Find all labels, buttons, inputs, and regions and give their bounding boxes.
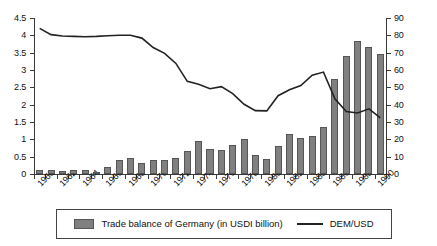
x-tick bbox=[79, 175, 80, 179]
x-tick bbox=[375, 175, 376, 179]
x-tick bbox=[57, 175, 58, 179]
y-tick-label-left: 4.5 bbox=[0, 14, 26, 23]
x-tick bbox=[170, 175, 171, 179]
y-tick-label-left: 1 bbox=[0, 135, 26, 144]
x-tick bbox=[352, 175, 353, 179]
legend-item-dem-usd: DEM/USD bbox=[297, 219, 374, 229]
x-tick bbox=[148, 175, 149, 179]
y-tick-right bbox=[387, 87, 391, 88]
x-tick bbox=[329, 175, 330, 179]
legend-item-trade-balance: Trade balance of Germany (in USDI billio… bbox=[74, 219, 282, 229]
y-tick-right bbox=[387, 53, 391, 54]
y-tick-right bbox=[387, 122, 391, 123]
x-tick bbox=[216, 175, 217, 179]
y-tick-right bbox=[387, 70, 391, 71]
x-tick bbox=[284, 175, 285, 179]
chart-legend: Trade balance of Germany (in USDI billio… bbox=[56, 209, 392, 239]
dem-usd-polyline bbox=[34, 18, 386, 174]
y-tick-label-left: 2.5 bbox=[0, 83, 26, 92]
y-tick-label-right: 50 bbox=[394, 83, 420, 92]
y-tick-label-right: 70 bbox=[394, 49, 420, 58]
legend-label-trade-balance: Trade balance of Germany (in USDI billio… bbox=[101, 219, 282, 229]
line-series-dem-usd bbox=[34, 18, 386, 174]
y-tick-label-left: 0.5 bbox=[0, 153, 26, 162]
x-tick bbox=[102, 175, 103, 179]
y-tick-label-right: 10 bbox=[394, 153, 420, 162]
y-tick-right bbox=[387, 105, 391, 106]
y-tick-label-right: 40 bbox=[394, 101, 420, 110]
y-tick-right bbox=[387, 157, 391, 158]
x-tick bbox=[261, 175, 262, 179]
legend-line-icon bbox=[297, 223, 323, 225]
y-tick-label-right: 60 bbox=[394, 66, 420, 75]
y-tick-label-left: 3 bbox=[0, 66, 26, 75]
y-tick-label-right: 80 bbox=[394, 31, 420, 40]
legend-swatch-icon bbox=[74, 219, 94, 229]
x-tick bbox=[307, 175, 308, 179]
y-axis-right bbox=[386, 18, 387, 175]
y-tick-label-right: 0 bbox=[394, 170, 420, 179]
y-tick-label-right: 20 bbox=[394, 135, 420, 144]
x-tick bbox=[238, 175, 239, 179]
y-tick-label-left: 3.5 bbox=[0, 49, 26, 58]
y-tick-right bbox=[387, 35, 391, 36]
y-tick-label-left: 0 bbox=[0, 170, 26, 179]
y-tick-label-left: 2 bbox=[0, 101, 26, 110]
legend-label-dem-usd: DEM/USD bbox=[330, 219, 374, 229]
y-tick-right bbox=[387, 139, 391, 140]
y-tick-label-right: 30 bbox=[394, 118, 420, 127]
y-tick-right bbox=[387, 18, 391, 19]
y-tick-label-right: 90 bbox=[394, 14, 420, 23]
chart-figure: 00.511.522.533.544.5 0102030405060708090… bbox=[0, 0, 437, 246]
x-tick bbox=[193, 175, 194, 179]
y-tick-label-left: 1.5 bbox=[0, 118, 26, 127]
x-tick bbox=[125, 175, 126, 179]
x-tick bbox=[34, 175, 35, 179]
y-tick-label-left: 4 bbox=[0, 31, 26, 40]
